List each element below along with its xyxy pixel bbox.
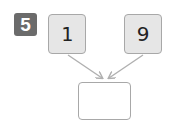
operand-left-value: 1 xyxy=(61,22,73,46)
problem-number: 5 xyxy=(20,14,31,35)
problem-number-badge: 5 xyxy=(14,13,37,36)
operand-right-value: 9 xyxy=(137,22,150,46)
operand-box-right: 9 xyxy=(124,14,162,54)
operand-box-left: 1 xyxy=(48,14,86,54)
arrow-down-left-icon xyxy=(109,55,143,78)
answer-box[interactable] xyxy=(78,82,131,120)
arrow-down-right-icon xyxy=(68,55,102,78)
